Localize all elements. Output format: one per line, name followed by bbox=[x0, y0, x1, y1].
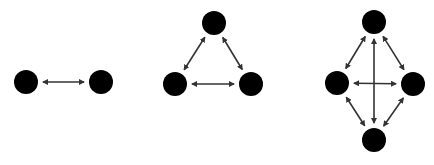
bidirectional-arrow-left-bottom bbox=[346, 97, 364, 125]
bidirectional-arrow-top-left bbox=[346, 37, 365, 69]
node-triangle-left bbox=[163, 72, 187, 96]
bidirectional-arrow-left-right bbox=[354, 83, 396, 84]
node-diamond-right bbox=[401, 72, 425, 96]
bidirectional-arrow-top-right bbox=[383, 36, 404, 69]
graph-two-nodes bbox=[14, 70, 113, 94]
network-diagram bbox=[0, 0, 434, 165]
node-diamond-top bbox=[362, 10, 386, 34]
graph-three-nodes bbox=[163, 11, 263, 96]
node-diamond-left bbox=[325, 71, 349, 95]
node-triangle-right bbox=[239, 72, 263, 96]
node-triangle-top bbox=[202, 11, 226, 35]
node-diamond-bottom bbox=[362, 128, 386, 152]
diagram-canvas bbox=[0, 0, 434, 165]
bidirectional-arrow-top-right bbox=[223, 38, 242, 70]
bidirectional-arrow-top-left bbox=[184, 37, 205, 69]
node-pair-b bbox=[89, 70, 113, 94]
node-pair-a bbox=[14, 70, 38, 94]
bidirectional-arrow-right-bottom bbox=[384, 98, 404, 126]
graph-four-nodes bbox=[325, 10, 425, 152]
